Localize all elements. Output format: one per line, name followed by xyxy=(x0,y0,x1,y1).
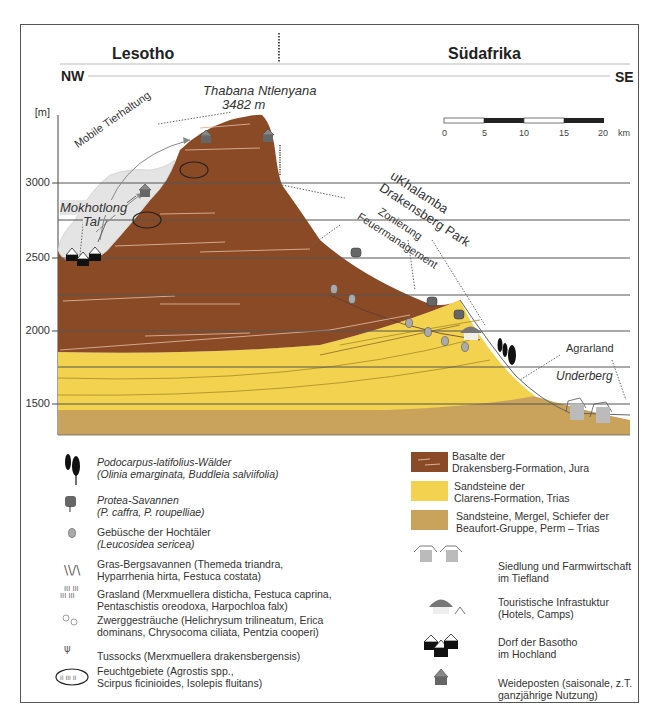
legend-shrub: Gebüsche der Hochtäler (Leucosidea seric… xyxy=(97,526,211,550)
legend-basotho-village: Dorf der Basotho im Hochland xyxy=(498,636,577,660)
scale-unit: km xyxy=(618,128,630,138)
legend-tourism: Touristische Infrastuktur (Hotels, Camps… xyxy=(498,596,609,620)
legend-dwarf-shrub: Zwerggesträuche (Helichrysum trilineatum… xyxy=(97,614,323,638)
direction-se: SE xyxy=(615,69,634,85)
legend-wetland: Feuchtgebiete (Agrostis spp., Scirpus fi… xyxy=(97,665,262,689)
svg-text:II III II: II III II xyxy=(60,674,76,681)
peak-name: Thabana Ntlenyana xyxy=(203,83,316,98)
farmland-label: Agrarland xyxy=(566,342,614,354)
legend-protea: Protea-Savannen (P. caffra, P. roupellia… xyxy=(97,494,205,518)
axis-tick-3000: 3000 xyxy=(10,176,50,188)
scale-label-0: 0 xyxy=(442,128,447,138)
legend-farm-settlement: Siedlung und Farmwirtschaft im Tiefland xyxy=(498,560,631,584)
scale-label-10: 10 xyxy=(519,128,529,138)
legend-beaufort: Sandsteine, Mergel, Schiefer der Beaufor… xyxy=(456,510,609,534)
svg-text:ψ: ψ xyxy=(64,643,71,654)
legend-podocarpus: Podocarpus-latifolius-Wälder (Olinia ema… xyxy=(97,456,279,480)
axis-unit: [m] xyxy=(0,106,50,118)
scale-label-20: 20 xyxy=(598,128,608,138)
scale-label-15: 15 xyxy=(559,128,569,138)
axis-tick-1500: 1500 xyxy=(10,397,50,409)
svg-text:\\/\: \\/\ xyxy=(64,563,81,577)
peak-height: 3482 m xyxy=(222,97,265,112)
scale-label-5: 5 xyxy=(482,128,487,138)
axis-tick-2500: 2500 xyxy=(10,251,50,263)
valley-label-2: Tal xyxy=(83,214,100,229)
scale-bar xyxy=(444,118,604,123)
legend-tussock: Tussocks (Merxmuellera drakensbergensis) xyxy=(97,650,300,662)
legend-basalt: Basalte der Drakensberg-Formation, Jura xyxy=(452,450,589,474)
valley-label-1: Mokhotlong xyxy=(60,200,127,215)
legend-clarens: Sandsteine der Clarens-Formation, Trias xyxy=(454,480,570,504)
region-lesotho: Lesotho xyxy=(112,45,174,63)
svg-text:III III: III III xyxy=(64,585,79,593)
direction-nw: NW xyxy=(61,68,84,84)
town-label: Underberg xyxy=(556,369,613,383)
legend-cattle-post: Weideposten (saisonale, z.T. ganzjährige… xyxy=(498,677,632,701)
legend-grass-savanna: Gras-Bergsavannen (Themeda triandra, Hyp… xyxy=(97,558,283,582)
svg-text:III III: III III xyxy=(60,592,75,600)
legend-grassland: Grasland (Merxmuellera disticha, Festuca… xyxy=(97,588,332,612)
region-suedafrika: Südafrika xyxy=(448,45,521,63)
axis-tick-2000: 2000 xyxy=(10,324,50,336)
